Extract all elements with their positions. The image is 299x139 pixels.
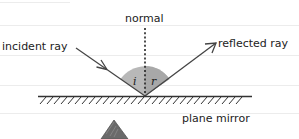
- angle-r-label: r: [151, 76, 156, 87]
- incident-arrowhead: [97, 60, 108, 70]
- angle-i-label: i: [133, 76, 137, 87]
- reflection-diagram: normal incident ray reflected ray plane …: [0, 0, 299, 139]
- mirror-hatching: [40, 97, 242, 104]
- reflected-ray-label: reflected ray: [218, 38, 288, 49]
- plane-mirror-label: plane mirror: [182, 113, 250, 124]
- incident-ray-label: incident ray: [2, 41, 67, 52]
- normal-label: normal: [125, 13, 164, 24]
